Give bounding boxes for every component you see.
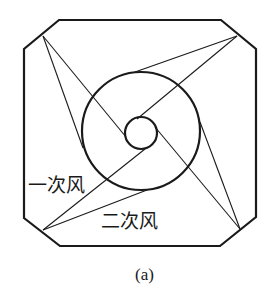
primary-air-label: 一次风 xyxy=(28,176,85,195)
figure-caption: (a) xyxy=(135,266,154,283)
air-jet-lines xyxy=(43,36,240,230)
tangent-circle-large xyxy=(82,72,200,190)
jet-line-bottom-right xyxy=(155,127,240,229)
jet-line-top-left xyxy=(43,36,126,137)
tangent-circle-small xyxy=(125,117,157,149)
jet-line-top-right xyxy=(137,36,237,119)
jet-line-bottom-right xyxy=(200,122,240,229)
tangential-firing-diagram: 一次风 二次风 (a) xyxy=(0,0,280,291)
jet-line-top-right xyxy=(135,36,237,72)
jet-line-top-left xyxy=(43,36,83,148)
diagram-canvas xyxy=(0,0,280,291)
secondary-air-label: 二次风 xyxy=(101,212,158,231)
